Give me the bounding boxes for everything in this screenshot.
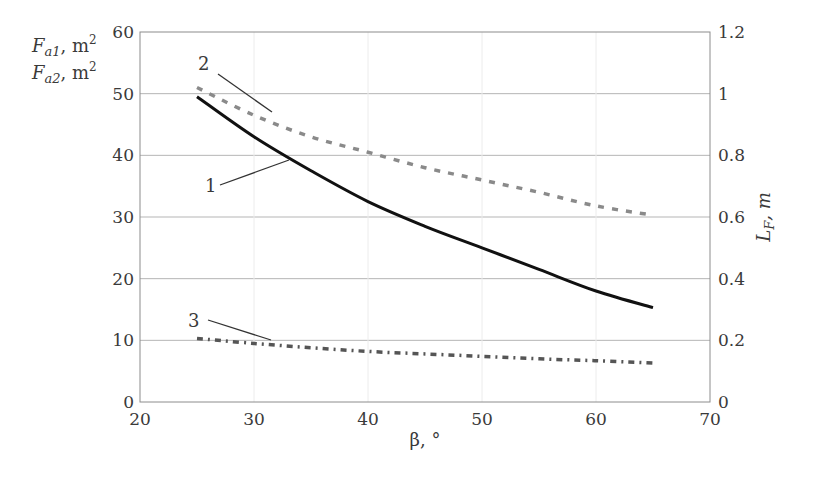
annotation-leader-line [218, 74, 272, 112]
x-tick-label: 20 [129, 409, 151, 429]
data-series [197, 88, 653, 364]
right-y-tick-label: 0.6 [718, 207, 745, 227]
line-chart: 123 203040506070 0102030405060 00.20.40.… [0, 0, 814, 479]
right-y-label-text: LF, m [753, 192, 777, 243]
curve-label-3: 3 [188, 310, 199, 331]
right-y-tick-label: 1 [718, 84, 729, 104]
series-3-line [197, 338, 653, 363]
x-tick-label: 40 [357, 409, 379, 429]
curve-label-1: 1 [205, 175, 216, 196]
x-tick-label: 50 [471, 409, 493, 429]
left-y-label-line: Fa2, m2 [31, 60, 97, 86]
right-y-tick-label: 0.4 [718, 269, 745, 289]
curve-annotations: 123 [188, 53, 289, 340]
left-y-tick-label: 30 [112, 207, 134, 227]
curve-label-2: 2 [198, 53, 209, 74]
right-y-axis-ticks: 00.20.40.60.811.2 [718, 22, 745, 412]
annotation-leader-line [208, 320, 271, 340]
left-y-axis-label: Fa1, m2Fa2, m2 [31, 33, 97, 86]
left-y-tick-label: 0 [123, 392, 134, 412]
right-y-tick-label: 1.2 [718, 22, 745, 42]
series-1-line [197, 97, 653, 308]
x-axis-label: β, ° [410, 429, 441, 450]
right-y-tick-label: 0.8 [718, 145, 745, 165]
left-y-tick-label: 20 [112, 269, 134, 289]
right-y-tick-label: 0 [718, 392, 729, 412]
gridlines [140, 32, 710, 402]
right-y-axis-label: LF, m [753, 192, 777, 243]
x-tick-label: 30 [243, 409, 265, 429]
x-tick-label: 60 [585, 409, 607, 429]
right-y-tick-label: 0.2 [718, 330, 745, 350]
left-y-tick-label: 40 [112, 145, 134, 165]
x-tick-label: 70 [699, 409, 721, 429]
left-y-tick-label: 10 [112, 330, 134, 350]
left-y-tick-label: 60 [112, 22, 134, 42]
left-y-axis-ticks: 0102030405060 [112, 22, 134, 412]
left-y-label-line: Fa1, m2 [31, 33, 97, 59]
left-y-tick-label: 50 [112, 84, 134, 104]
x-axis-ticks: 203040506070 [129, 409, 721, 429]
